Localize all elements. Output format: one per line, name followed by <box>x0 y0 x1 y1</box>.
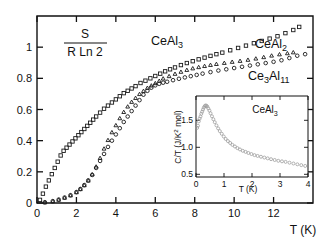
ce3al11-label-base-a: Ce <box>248 69 264 83</box>
y-tick-label: 0.4 <box>17 135 32 147</box>
svg-text:Ce3Al11: Ce3Al11 <box>248 69 289 85</box>
main-x-axis-label: T (K) <box>290 223 316 237</box>
inset-y-label-post: mol) <box>173 110 183 129</box>
inset-plot: 01234 0.51.01.5 T (K) C/T (J/K2 mol) CeA… <box>172 96 311 194</box>
inset-x-axis-label: T (K) <box>239 184 258 194</box>
y-axis-denominator: R Ln 2 <box>67 45 103 59</box>
ceal2-label-subscript: 2 <box>282 43 287 53</box>
svg-text:CeAl3: CeAl3 <box>151 34 183 50</box>
inset-y-axis-label: C/T (J/K2 mol) <box>172 110 183 163</box>
ceal3-label-base: CeAl <box>151 34 178 48</box>
inset-x-tick-label: 3 <box>278 179 283 189</box>
x-tick-label: 4 <box>113 207 119 219</box>
y-tick-label: 0.8 <box>17 72 32 84</box>
x-tick-label: 0 <box>34 207 40 219</box>
inset-x-tick-label: 0 <box>194 179 199 189</box>
y-tick-label: 0.2 <box>17 166 32 178</box>
inset-label-base: CeAl <box>252 104 274 115</box>
x-tick-label: 12 <box>267 207 279 219</box>
x-tick-label: 2 <box>73 207 79 219</box>
main-x-axis-tick-labels: 024681012 <box>34 207 280 219</box>
entropy-vs-temperature-chart: 024681012 00.20.40.60.81 S R Ln 2 T (K) … <box>0 0 334 244</box>
inset-label-subscript: 3 <box>274 109 278 118</box>
y-tick-label: 0.6 <box>17 104 32 116</box>
inset-y-tick-label: 0.5 <box>181 169 193 179</box>
x-tick-label: 8 <box>192 207 198 219</box>
x-tick-label: 6 <box>152 207 158 219</box>
ce3al11-label-subscript-b: 11 <box>280 75 289 85</box>
series-label-ceal2: CeAl2 <box>255 37 287 53</box>
ceal3-label-subscript: 3 <box>178 40 183 50</box>
main-y-axis-tick-labels: 00.20.40.60.81 <box>17 41 32 209</box>
inset-y-label-pre: C/T (J/K <box>173 132 183 163</box>
ce3al11-label-base-b: Al <box>269 69 280 83</box>
svg-text:CeAl2: CeAl2 <box>255 37 287 53</box>
y-tick-label: 0 <box>26 197 32 209</box>
series-label-ce3al11: Ce3Al11 <box>248 69 289 85</box>
x-tick-label: 10 <box>228 207 240 219</box>
inset-x-tick-label: 4 <box>306 179 311 189</box>
inset-x-tick-label: 1 <box>222 179 227 189</box>
y-axis-numerator: S <box>81 27 89 41</box>
ceal2-label-base: CeAl <box>255 37 282 51</box>
y-tick-label: 1 <box>26 41 32 53</box>
series-label-ceal3: CeAl3 <box>151 34 183 50</box>
figure-container: 024681012 00.20.40.60.81 S R Ln 2 T (K) … <box>0 0 334 244</box>
main-y-axis-label: S R Ln 2 <box>64 27 107 59</box>
